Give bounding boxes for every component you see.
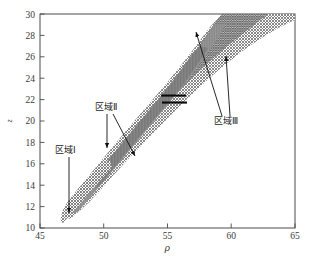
y-tick-label: 24 <box>26 74 36 84</box>
y-axis-label: z <box>5 119 14 124</box>
stability-region-chart: 45 50 55 60 65 10 12 14 16 18 20 22 24 2… <box>0 0 311 257</box>
y-tick-label: 22 <box>26 95 36 105</box>
y-tick-label: 14 <box>26 181 36 191</box>
x-tick-label: 55 <box>163 231 173 241</box>
y-tick-label: 28 <box>26 31 36 41</box>
y-tick-label: 30 <box>26 10 36 20</box>
x-tick-label: 65 <box>290 231 300 241</box>
x-tick-labels: 45 50 55 60 65 <box>35 231 300 241</box>
x-tick-label: 50 <box>99 231 109 241</box>
black-band-upper <box>161 95 186 97</box>
y-tick-label: 16 <box>26 159 36 169</box>
y-tick-label: 10 <box>26 223 36 233</box>
y-tick-labels: 10 12 14 16 18 20 22 24 26 28 30 <box>26 10 36 234</box>
x-tick-label: 60 <box>226 231 236 241</box>
x-tick-label: 45 <box>35 231 45 241</box>
annotation-label-region-2: 区域Ⅱ <box>95 101 117 112</box>
y-tick-label: 20 <box>26 116 36 126</box>
y-tick-label: 26 <box>26 52 36 62</box>
x-axis-label: ρ <box>164 241 170 253</box>
figure-container: 45 50 55 60 65 10 12 14 16 18 20 22 24 2… <box>0 0 311 257</box>
annotation-label-region-1: 区域Ⅰ <box>55 144 76 155</box>
annotation-label-region-3: 区域Ⅲ <box>214 115 238 126</box>
black-band-lower <box>162 102 187 104</box>
y-tick-label: 18 <box>26 138 36 148</box>
y-tick-label: 12 <box>26 202 36 212</box>
